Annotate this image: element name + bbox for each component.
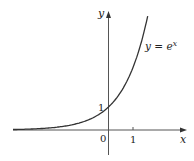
y-tick-label-1: 1: [98, 102, 104, 113]
exponential-graph: y x 0 1 1 y = ex: [0, 0, 194, 161]
y-axis-arrow-icon: [106, 11, 111, 18]
y-axis-label: y: [97, 7, 105, 20]
x-tick-label-1: 1: [130, 134, 136, 145]
curve-annotation-main: y = e: [144, 40, 173, 52]
exp-curve: [13, 16, 148, 129]
x-axis-label: x: [180, 133, 187, 146]
origin-label: 0: [100, 133, 106, 144]
curve-annotation: y = ex: [144, 39, 178, 52]
curve-annotation-sup: x: [173, 39, 178, 48]
x-axis-arrow-icon: [180, 128, 187, 133]
